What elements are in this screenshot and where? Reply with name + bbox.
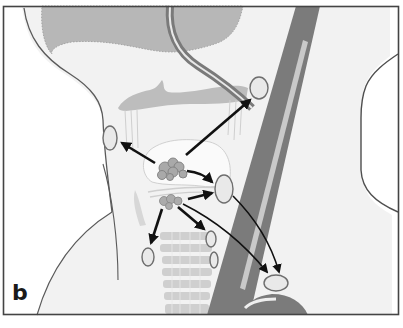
mid-jugular-node <box>215 175 233 203</box>
lower-jugular-supraclavicular-node <box>264 275 288 291</box>
prelaryngeal-left-node <box>103 126 117 150</box>
pretracheal-node-lower <box>210 252 218 268</box>
upper-jugular-node <box>250 77 268 99</box>
paratracheal-node <box>142 248 154 266</box>
pretracheal-node-upper <box>206 231 216 247</box>
neck-lymph-drainage-illustration <box>0 0 403 328</box>
panel-label: b <box>12 282 28 304</box>
anatomical-figure: b <box>0 0 403 328</box>
